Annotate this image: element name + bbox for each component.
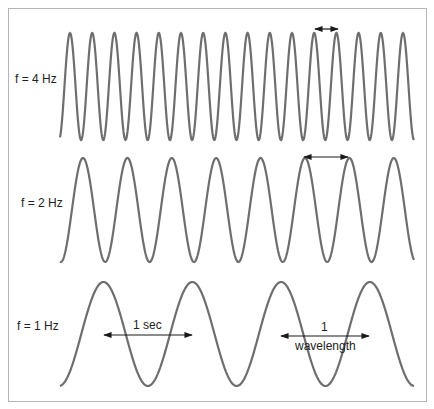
frequency-label-2hz: f = 2 Hz: [21, 196, 63, 210]
one-second-label: 1 sec: [133, 318, 162, 332]
wave-1hz: [60, 282, 414, 386]
wave-4hz: [60, 33, 414, 140]
frequency-label-1hz: f = 1 Hz: [17, 319, 59, 333]
one-wavelength-number: 1: [321, 320, 328, 334]
wavelength-label: wavelength: [295, 339, 356, 353]
frequency-label-4hz: f = 4 Hz: [15, 72, 57, 86]
waves-canvas: [0, 0, 434, 409]
wave-2hz: [60, 158, 414, 262]
